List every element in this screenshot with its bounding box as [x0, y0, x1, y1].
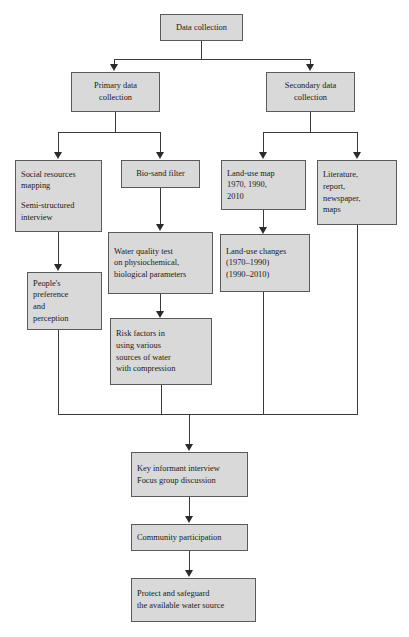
arrow-to-literature: [353, 152, 361, 159]
arrow-to-secondary: [306, 64, 314, 71]
node-literature-label: Literature, report, newspaper, maps: [323, 169, 361, 215]
node-literature[interactable]: Literature, report, newspaper, maps: [317, 160, 397, 225]
node-social-resources-mapping[interactable]: Social resources mapping Semi-structured…: [15, 160, 102, 232]
connector-primary-left-drop: [58, 132, 59, 154]
connector-key-to-community: [189, 497, 190, 517]
node-social-mapping-line1: Social resources: [21, 169, 76, 181]
arrow-to-water-quality: [156, 224, 164, 231]
node-land-use-changes-label: Land-use changes (1970–1990) (1990–2010): [226, 246, 286, 281]
node-community-label: Community participation: [137, 532, 221, 544]
connector-social-to-people: [58, 232, 59, 265]
node-bio-sand-filter[interactable]: Bio-sand filter: [121, 160, 200, 188]
node-protect-safeguard[interactable]: Protect and safeguard the available wate…: [131, 578, 256, 622]
node-land-use-map[interactable]: Land-use map 1970, 1990, 2010: [221, 160, 306, 210]
arrow-to-landuse-map: [259, 152, 267, 159]
arrow-to-land-use-changes: [259, 227, 267, 234]
connector-community-to-protect: [189, 551, 190, 571]
connector-secondary-bus: [263, 132, 358, 133]
node-data-collection-label: Data collection: [176, 22, 227, 34]
node-land-use-changes[interactable]: Land-use changes (1970–1990) (1990–2010): [220, 234, 310, 292]
node-data-collection[interactable]: Data collection: [160, 14, 243, 41]
node-social-mapping-line4: interview: [21, 212, 53, 224]
arrow-to-primary: [110, 64, 118, 71]
node-community-participation[interactable]: Community participation: [131, 524, 248, 551]
connector-root-bus: [114, 59, 310, 60]
node-bio-sand-filter-label: Bio-sand filter: [136, 168, 185, 180]
connector-biosand-to-water: [160, 188, 161, 225]
connector-risk-to-bus: [161, 385, 162, 415]
connector-changes-to-bus: [263, 292, 264, 415]
node-water-quality-test[interactable]: Water quality test on physiochemical, bi…: [108, 232, 213, 294]
node-primary-label: Primary data collection: [94, 80, 137, 103]
arrow-to-protect: [185, 570, 193, 577]
connector-water-to-risk: [160, 294, 161, 312]
connector-root-down: [201, 41, 202, 59]
node-risk-factors[interactable]: Risk factors in using various sources of…: [110, 318, 212, 385]
arrow-to-social-mapping: [54, 152, 62, 159]
arrow-to-community: [185, 516, 193, 523]
node-land-use-map-label: Land-use map 1970, 1990, 2010: [227, 168, 275, 203]
connector-secondary-right-drop: [357, 132, 358, 154]
node-primary-data-collection[interactable]: Primary data collection: [71, 72, 160, 112]
node-social-mapping-line2: mapping: [21, 180, 50, 192]
connector-literature-to-bus: [357, 225, 358, 415]
node-key-informant-interview[interactable]: Key informant interview Focus group disc…: [131, 452, 248, 497]
node-peoples-preference-label: People's preference and perception: [33, 278, 68, 324]
node-peoples-preference[interactable]: People's preference and perception: [27, 272, 102, 330]
node-key-informant-label: Key informant interview Focus group disc…: [137, 463, 220, 486]
node-protect-label: Protect and safeguard the available wate…: [137, 588, 224, 611]
arrow-to-risk-factors: [156, 311, 164, 318]
connector-primary-right-drop: [160, 132, 161, 154]
arrow-to-key-informant: [185, 444, 193, 451]
connector-secondary-down: [310, 112, 311, 132]
connector-primary-bus: [58, 132, 161, 133]
node-social-mapping-line3: Semi-structured: [21, 200, 75, 212]
connector-people-to-bus: [58, 330, 59, 415]
node-risk-factors-label: Risk factors in using various sources of…: [116, 328, 175, 374]
arrow-to-biosand: [156, 152, 164, 159]
node-secondary-label: Secondary data collection: [285, 80, 336, 103]
flowchart-canvas: Data collection Primary data collection …: [0, 0, 409, 637]
node-water-quality-label: Water quality test on physiochemical, bi…: [114, 246, 186, 281]
node-secondary-data-collection[interactable]: Secondary data collection: [266, 72, 355, 112]
connector-landusemap-to-changes: [263, 210, 264, 228]
connector-primary-down: [115, 112, 116, 132]
connector-convergence-bus: [58, 414, 358, 415]
connector-bus-to-key-informant: [189, 414, 190, 445]
arrow-to-peoples-preference: [54, 264, 62, 271]
connector-secondary-left-drop: [263, 132, 264, 154]
